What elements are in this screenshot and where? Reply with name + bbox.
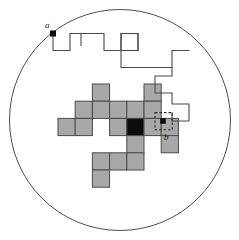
figure-container: a b xyxy=(0,0,239,240)
point-a-marker xyxy=(50,31,56,37)
highlight-cell xyxy=(127,118,144,135)
shaded-cell xyxy=(75,101,92,118)
figure-canvas: a b xyxy=(0,0,239,240)
shaded-cell xyxy=(127,101,144,118)
shaded-cell xyxy=(127,153,144,170)
shaded-cell-cluster xyxy=(58,84,178,187)
shaded-cell xyxy=(110,101,127,118)
shaded-cell xyxy=(92,84,109,101)
shaded-cell xyxy=(58,118,75,135)
open-square-node xyxy=(121,34,138,51)
shaded-cell xyxy=(110,118,127,135)
shaded-cell xyxy=(75,118,92,135)
shaded-cell xyxy=(144,118,161,135)
point-b-label: b xyxy=(164,132,169,142)
shaded-cell xyxy=(92,153,109,170)
shaded-cell xyxy=(144,101,161,118)
shaded-cell xyxy=(127,136,144,153)
shaded-cell xyxy=(92,170,109,187)
shaded-cell xyxy=(110,153,127,170)
point-b-marker xyxy=(160,118,166,124)
shaded-cell xyxy=(92,101,109,118)
point-a-label: a xyxy=(45,20,50,30)
